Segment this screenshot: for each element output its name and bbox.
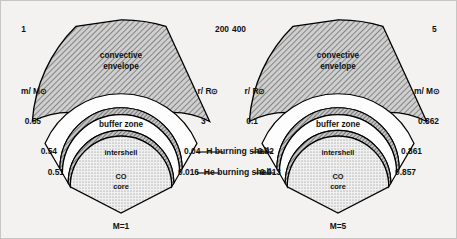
convective-envelope-label-line2-left: envelope bbox=[103, 62, 139, 71]
figure-canvas: convective envelope buffer zone intershe… bbox=[1, 1, 457, 239]
value-envelope-base-left-right: 0.1 bbox=[246, 116, 258, 126]
value-envelope-top-right-right: 5 bbox=[432, 24, 437, 34]
panel-right: convective envelope buffer zone intershe… bbox=[232, 20, 440, 231]
convective-envelope-label-line1-right: convective bbox=[317, 51, 360, 60]
h-burning-shell-label: H burning shell bbox=[206, 146, 269, 156]
value-envelope-top-left-right: 400 bbox=[232, 24, 246, 34]
axis-label-radius-left: r/ R⊙ bbox=[198, 86, 219, 96]
value-envelope-top-left-left: 1 bbox=[21, 24, 26, 34]
value-he-shell-left-left: 0.51 bbox=[48, 167, 65, 177]
value-h-shell-left-left: 0.54 bbox=[41, 146, 58, 156]
co-core-label-line2-right: core bbox=[330, 182, 346, 191]
value-envelope-base-right-right: 0.862 bbox=[418, 116, 439, 126]
convective-envelope-label-line1-left: convective bbox=[100, 51, 143, 60]
value-he-shell-right-left: 0.016 bbox=[178, 167, 199, 177]
value-envelope-base-right-left: 3 bbox=[201, 116, 206, 126]
co-core-label-line1-left: CO bbox=[115, 172, 126, 181]
intershell-label-left: intershell bbox=[105, 148, 138, 157]
buffer-zone-label-left: buffer zone bbox=[99, 120, 144, 129]
axis-label-mass-right: m/ M⊙ bbox=[414, 86, 440, 96]
he-burning-shell-label: He burning shell bbox=[204, 167, 271, 177]
buffer-zone-label-right: buffer zone bbox=[316, 120, 361, 129]
co-core-label-line1-right: CO bbox=[332, 172, 343, 181]
value-he-shell-right-right: 0.857 bbox=[395, 167, 416, 177]
value-envelope-base-left-left: 0.55 bbox=[25, 116, 42, 126]
value-envelope-top-right-left: 200 bbox=[215, 24, 229, 34]
intershell-label-right: intershell bbox=[322, 148, 355, 157]
shared-shell-annotations: H burning shell He burning shell bbox=[197, 146, 275, 177]
stellar-structure-figure: convective envelope buffer zone intershe… bbox=[0, 0, 457, 239]
total-mass-label-right: M=5 bbox=[330, 221, 347, 231]
panel-left: convective envelope buffer zone intershe… bbox=[21, 20, 229, 231]
value-h-shell-right-left: 0.04 bbox=[184, 146, 201, 156]
axis-label-mass-left: m/ M⊙ bbox=[21, 86, 47, 96]
value-h-shell-right-right: 0.861 bbox=[401, 146, 422, 156]
convective-envelope-label-line2-right: envelope bbox=[320, 62, 356, 71]
co-core-label-line2-left: core bbox=[113, 182, 129, 191]
total-mass-label-left: M=1 bbox=[113, 221, 130, 231]
axis-label-radius-right: r/ R⊙ bbox=[245, 86, 266, 96]
